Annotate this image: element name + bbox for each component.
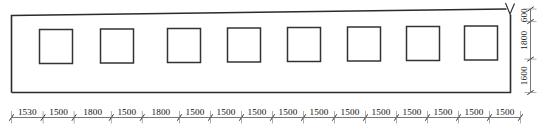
window-opening	[407, 27, 440, 61]
window-opening	[168, 29, 201, 63]
dimension-label: 1500	[403, 107, 422, 117]
dimension-label: 1500	[496, 107, 515, 117]
dimension-label: 1500	[117, 107, 136, 117]
window-opening	[40, 30, 73, 64]
dimension-label: 1500	[279, 107, 298, 117]
dimension-label: 1500	[186, 107, 205, 117]
break-symbol-icon	[506, 3, 515, 14]
dimension-label: 1500	[341, 107, 360, 117]
bottom-dimension-chain: 1530150018001500180015001500150015001500…	[9, 107, 522, 124]
dimension-label: 1600	[519, 66, 529, 85]
dimension-label-group-vertical: 60018001600	[519, 8, 529, 85]
elevation-drawing: 1530150018001500180015001500150015001500…	[0, 0, 547, 128]
dimension-label: 1500	[310, 107, 329, 117]
dimension-label: 1500	[248, 107, 267, 117]
dimension-label-group: 1530150018001500180015001500150015001500…	[18, 107, 515, 117]
dimension-label: 1800	[152, 107, 171, 117]
dimension-label: 1500	[434, 107, 453, 117]
dimension-label: 600	[519, 8, 529, 22]
window-opening	[288, 28, 321, 62]
window-opening	[348, 27, 381, 61]
window-opening	[101, 29, 134, 63]
dimension-label: 1500	[217, 107, 236, 117]
opening-group	[40, 26, 498, 64]
dimension-label: 1530	[18, 107, 37, 117]
dimension-label: 1500	[49, 107, 68, 117]
right-dimension-chain: 60018001600	[519, 7, 537, 95]
dimension-label: 1800	[519, 31, 529, 50]
drawing-canvas: 1530150018001500180015001500150015001500…	[0, 0, 547, 128]
dimension-label: 1500	[465, 107, 484, 117]
window-opening	[228, 28, 261, 62]
dimension-label: 1800	[83, 107, 102, 117]
window-opening	[465, 26, 498, 60]
dimension-label: 1500	[372, 107, 391, 117]
